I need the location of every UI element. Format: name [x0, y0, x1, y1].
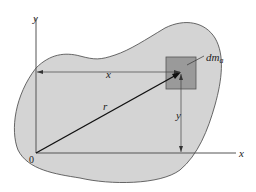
origin-label: 0	[29, 154, 34, 165]
x-distance-label: x	[105, 68, 111, 80]
body-region	[14, 23, 221, 183]
mass-element-diagram: y x 0 r x y dma	[0, 0, 256, 192]
dm-label-subscript: a	[219, 56, 223, 65]
dm-label-main: dm	[206, 51, 220, 63]
y-axis-label: y	[32, 12, 38, 24]
dm-label: dma	[206, 51, 223, 65]
x-axis-label: x	[238, 147, 244, 159]
y-distance-label: y	[175, 109, 181, 121]
r-label: r	[103, 100, 108, 112]
